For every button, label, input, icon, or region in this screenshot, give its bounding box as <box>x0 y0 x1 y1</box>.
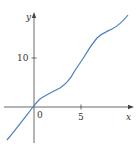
line-chart: y x 0 5 10 <box>0 0 137 144</box>
y-axis-label: y <box>25 12 32 22</box>
data-curve <box>7 15 128 140</box>
x-axis-label: x <box>126 112 131 122</box>
x-axis-arrow-icon <box>128 105 134 109</box>
y-tick-label-10: 10 <box>17 53 29 63</box>
y-axis-arrow-icon <box>32 12 36 18</box>
origin-label: 0 <box>37 110 43 120</box>
x-tick-label-5: 5 <box>78 112 84 122</box>
